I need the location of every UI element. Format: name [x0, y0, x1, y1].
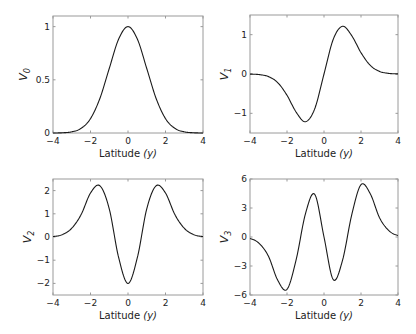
y-tick-label: −6: [234, 290, 248, 300]
subplot-bottom-left: −4−2024−2−1012Latitude (y)V2: [21, 179, 206, 321]
y-tick-label: 1: [44, 22, 50, 32]
x-tick-label: 0: [125, 136, 131, 146]
x-tick-label: 2: [163, 136, 169, 146]
y-tick-label: −3: [234, 261, 247, 271]
x-axis-label: Latitude (y): [99, 148, 157, 159]
x-tick-label: 0: [321, 136, 327, 146]
x-tick-label: 4: [200, 298, 206, 308]
x-axis-label: Latitude (y): [295, 310, 353, 321]
y-tick-label: −1: [37, 255, 50, 265]
x-tick-label: 4: [395, 136, 401, 146]
y-tick-label: 6: [241, 174, 247, 184]
y-tick-label: 1: [44, 209, 50, 219]
subplot-top-left: −4−202400.51Latitude (y)V0: [17, 16, 206, 159]
x-tick-label: −2: [84, 298, 97, 308]
x-tick-label: 2: [358, 136, 364, 146]
y-tick-label: 1: [241, 30, 247, 40]
x-tick-label: −2: [280, 136, 293, 146]
x-tick-label: 0: [321, 298, 327, 308]
axes-box: [53, 179, 203, 295]
x-tick-label: −2: [84, 136, 97, 146]
x-tick-label: −4: [243, 136, 257, 146]
y-tick-label: 0: [241, 69, 247, 79]
y-axis-label: V3: [218, 231, 233, 244]
subplot-top-right: −4−2024−101Latitude (y)V1: [218, 15, 401, 159]
y-tick-label: −2: [37, 278, 50, 288]
x-axis-label: Latitude (y): [295, 148, 353, 159]
y-tick-label: 3: [241, 203, 247, 213]
subplot-bottom-right: −4−2024−6−3036Latitude (y)V3: [218, 174, 401, 321]
x-tick-label: 0: [125, 298, 131, 308]
x-axis-label: Latitude (y): [99, 310, 157, 321]
y-axis-label: V0: [17, 68, 32, 81]
y-tick-label: 0: [241, 232, 247, 242]
y-tick-label: 2: [44, 186, 50, 196]
x-tick-label: 2: [358, 298, 364, 308]
y-axis-label: V1: [218, 68, 233, 81]
y-tick-label: −1: [234, 108, 247, 118]
y-axis-label: V2: [21, 231, 36, 244]
y-tick-label: 0.5: [36, 75, 50, 85]
figure-canvas: −4−202400.51Latitude (y)V0−4−2024−101Lat…: [0, 0, 416, 334]
x-tick-label: 4: [200, 136, 206, 146]
y-tick-label: 0: [44, 128, 50, 138]
x-tick-label: −2: [280, 298, 293, 308]
y-tick-label: 0: [44, 232, 50, 242]
x-tick-label: 4: [395, 298, 401, 308]
x-tick-label: 2: [163, 298, 169, 308]
axes-box: [53, 16, 203, 133]
x-tick-label: −4: [46, 298, 60, 308]
